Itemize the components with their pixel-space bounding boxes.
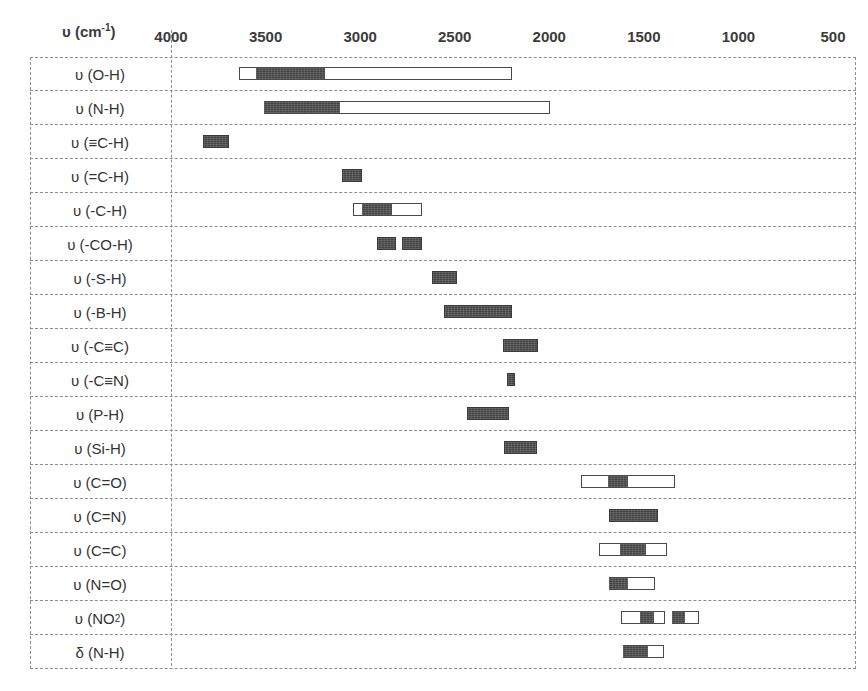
chart-row-carbonyl-stretch: υ (C=O): [30, 465, 856, 499]
band-solid-nitrile-c-n-stretch-0: [507, 373, 516, 386]
axis-tick-2500: 2500: [438, 28, 471, 45]
chart-row-alkene-c-h-stretch: υ (=C-H): [30, 159, 856, 193]
band-solid-aldehyde-c-h-stretch-1: [402, 237, 422, 250]
chart-row-o-h-stretch: υ (O-H): [30, 57, 856, 91]
row-label-nitrile-c-n-stretch: υ (-C≡N): [30, 363, 170, 397]
chart-row-c-n-double-stretch: υ (C=N): [30, 499, 856, 533]
row-label-s-h-stretch: υ (-S-H): [30, 261, 170, 295]
chart-row-n-h-bend: δ (N-H): [30, 635, 856, 669]
band-range-o-h-stretch-0: [239, 67, 512, 80]
chart-row-aldehyde-c-h-stretch: υ (-CO-H): [30, 227, 856, 261]
chart-row-alkyne-c-c-stretch: υ (-C≡C): [30, 329, 856, 363]
axis-tick-3000: 3000: [343, 28, 376, 45]
band-range-c-c-double-stretch-0: [599, 543, 667, 556]
band-solid-alkyne-c-c-stretch-0: [503, 339, 538, 352]
chart-row-n-o-double-stretch: υ (N=O): [30, 567, 856, 601]
band-fill-nitro-group-stretch-0: [640, 612, 654, 623]
axis-tick-3500: 3500: [249, 28, 282, 45]
band-solid-aldehyde-c-h-stretch-0: [377, 237, 396, 250]
chart-row-c-c-double-stretch: υ (C=C): [30, 533, 856, 567]
row-label-alkane-c-h-stretch: υ (-C-H): [30, 193, 170, 227]
axis-tick-1000: 1000: [722, 28, 755, 45]
axis-tick-2000: 2000: [533, 28, 566, 45]
band-range-n-o-double-stretch-0: [609, 577, 655, 590]
row-label-o-h-stretch: υ (O-H): [30, 57, 170, 91]
chart-row-alkyne-c-h-stretch: υ (≡C-H): [30, 125, 856, 159]
band-fill-alkane-c-h-stretch-0: [362, 204, 392, 215]
row-label-n-h-bend: δ (N-H): [30, 635, 170, 669]
band-range-carbonyl-stretch-0: [581, 475, 675, 488]
band-range-alkane-c-h-stretch-0: [353, 203, 422, 216]
band-fill-c-c-double-stretch-0: [620, 544, 646, 555]
axis-tick-500: 500: [820, 28, 845, 45]
row-label-si-h-stretch: υ (Si-H): [30, 431, 170, 465]
band-fill-o-h-stretch-0: [256, 68, 325, 79]
band-solid-alkene-c-h-stretch-0: [342, 169, 362, 182]
row-label-c-c-double-stretch: υ (C=C): [30, 533, 170, 567]
band-solid-b-h-stretch-0: [444, 305, 512, 318]
chart-row-n-h-stretch: υ (N-H): [30, 91, 856, 125]
axis-tick-1500: 1500: [627, 28, 660, 45]
band-range-nitro-group-stretch-1: [672, 611, 698, 624]
band-fill-n-h-stretch-0: [264, 102, 341, 113]
band-fill-carbonyl-stretch-0: [608, 476, 628, 487]
row-label-c-n-double-stretch: υ (C=N): [30, 499, 170, 533]
band-solid-c-n-double-stretch-0: [609, 509, 658, 522]
row-label-aldehyde-c-h-stretch: υ (-CO-H): [30, 227, 170, 261]
chart-row-b-h-stretch: υ (-B-H): [30, 295, 856, 329]
band-solid-alkyne-c-h-stretch-0: [203, 135, 229, 148]
row-label-alkene-c-h-stretch: υ (=C-H): [30, 159, 170, 193]
chart-row-s-h-stretch: υ (-S-H): [30, 261, 856, 295]
band-fill-n-h-bend-0: [623, 646, 648, 657]
chart-row-si-h-stretch: υ (Si-H): [30, 431, 856, 465]
ir-correlation-chart: υ (cm-1) 4000350030002500200015001000500…: [0, 0, 868, 691]
band-fill-n-o-double-stretch-0: [609, 578, 628, 589]
band-range-n-h-bend-0: [623, 645, 664, 658]
chart-row-p-h-stretch: υ (P-H): [30, 397, 856, 431]
band-solid-si-h-stretch-0: [504, 441, 537, 454]
band-solid-s-h-stretch-0: [432, 271, 457, 284]
band-solid-p-h-stretch-0: [467, 407, 509, 420]
chart-row-alkane-c-h-stretch: υ (-C-H): [30, 193, 856, 227]
chart-row-nitrile-c-n-stretch: υ (-C≡N): [30, 363, 856, 397]
band-range-n-h-stretch-0: [264, 101, 551, 114]
row-label-n-h-stretch: υ (N-H): [30, 91, 170, 125]
band-range-nitro-group-stretch-0: [621, 611, 665, 624]
row-label-nitro-group-stretch: υ (NO2): [30, 601, 170, 635]
row-label-n-o-double-stretch: υ (N=O): [30, 567, 170, 601]
row-label-alkyne-c-h-stretch: υ (≡C-H): [30, 125, 170, 159]
row-label-alkyne-c-c-stretch: υ (-C≡C): [30, 329, 170, 363]
axis-header: υ (cm-1) 4000350030002500200015001000500: [0, 0, 868, 57]
band-fill-nitro-group-stretch-0: [672, 612, 684, 623]
chart-row-nitro-group-stretch: υ (NO2): [30, 601, 856, 635]
row-label-b-h-stretch: υ (-B-H): [30, 295, 170, 329]
row-label-carbonyl-stretch: υ (C=O): [30, 465, 170, 499]
axis-unit-label: υ (cm-1): [62, 22, 115, 40]
row-label-p-h-stretch: υ (P-H): [30, 397, 170, 431]
